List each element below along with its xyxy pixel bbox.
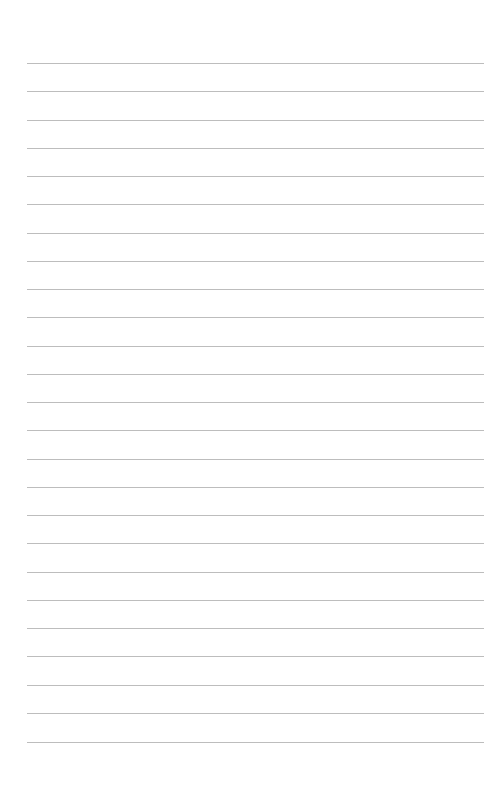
notebook-page — [0, 0, 491, 785]
writing-area[interactable] — [27, 0, 485, 785]
